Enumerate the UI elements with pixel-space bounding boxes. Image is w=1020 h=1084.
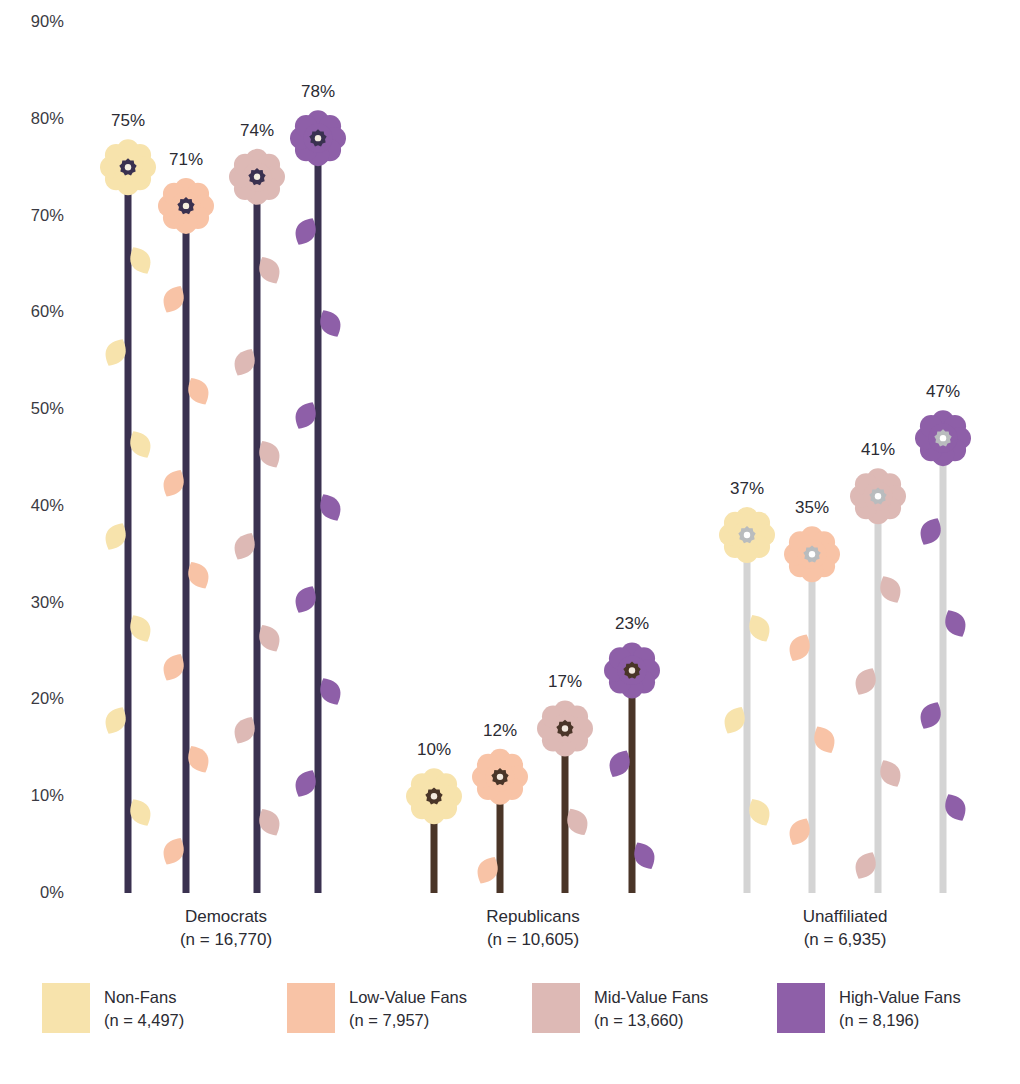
legend-sample-size: (n = 7,957) — [349, 1009, 467, 1032]
labels-layer: 90%80%70%60%50%40%30%20%10%0%75%71%74%78… — [0, 0, 1020, 950]
bar-value-label: 74% — [240, 121, 274, 141]
legend-sample-size: (n = 4,497) — [104, 1009, 184, 1032]
legend-text-block: High-Value Fans(n = 8,196) — [839, 983, 961, 1032]
legend-color-swatch — [287, 983, 335, 1033]
legend-label: Mid-Value Fans — [594, 986, 708, 1009]
bar-value-label: 17% — [548, 672, 582, 692]
group-sample-size: (n = 16,770) — [180, 929, 272, 952]
x-axis-group-label: Republicans(n = 10,605) — [486, 906, 580, 952]
legend-label: Non-Fans — [104, 986, 184, 1009]
y-axis-tick-label: 20% — [6, 689, 64, 708]
legend-item[interactable]: Low-Value Fans(n = 7,957) — [287, 983, 467, 1033]
bar-value-label: 41% — [861, 440, 895, 460]
y-axis-tick-label: 0% — [6, 883, 64, 902]
bar-value-label: 10% — [417, 740, 451, 760]
group-name: Unaffiliated — [803, 906, 888, 929]
legend-label: Low-Value Fans — [349, 986, 467, 1009]
legend-color-swatch — [532, 983, 580, 1033]
bar-value-label: 47% — [926, 382, 960, 402]
x-axis-group-label: Unaffiliated(n = 6,935) — [803, 906, 888, 952]
bar-value-label: 23% — [615, 614, 649, 634]
group-sample-size: (n = 6,935) — [803, 929, 888, 952]
y-axis-tick-label: 70% — [6, 206, 64, 225]
legend-sample-size: (n = 8,196) — [839, 1009, 961, 1032]
legend-color-swatch — [777, 983, 825, 1033]
legend-color-swatch — [42, 983, 90, 1033]
y-axis-tick-label: 90% — [6, 12, 64, 31]
bar-value-label: 75% — [111, 111, 145, 131]
y-axis-tick-label: 50% — [6, 399, 64, 418]
legend-item[interactable]: Non-Fans(n = 4,497) — [42, 983, 184, 1033]
legend-text-block: Non-Fans(n = 4,497) — [104, 983, 184, 1032]
bar-value-label: 37% — [730, 479, 764, 499]
legend-label: High-Value Fans — [839, 986, 961, 1009]
legend-item[interactable]: Mid-Value Fans(n = 13,660) — [532, 983, 708, 1033]
y-axis-tick-label: 80% — [6, 109, 64, 128]
legend-sample-size: (n = 13,660) — [594, 1009, 708, 1032]
bar-value-label: 78% — [301, 82, 335, 102]
legend-text-block: Mid-Value Fans(n = 13,660) — [594, 983, 708, 1032]
group-name: Republicans — [486, 906, 580, 929]
legend-item[interactable]: High-Value Fans(n = 8,196) — [777, 983, 961, 1033]
group-sample-size: (n = 10,605) — [486, 929, 580, 952]
bar-value-label: 71% — [169, 150, 203, 170]
legend-text-block: Low-Value Fans(n = 7,957) — [349, 983, 467, 1032]
y-axis-tick-label: 40% — [6, 496, 64, 515]
bar-value-label: 12% — [483, 721, 517, 741]
y-axis-tick-label: 60% — [6, 302, 64, 321]
bar-value-label: 35% — [795, 498, 829, 518]
group-name: Democrats — [180, 906, 272, 929]
chart-legend: Non-Fans(n = 4,497)Low-Value Fans(n = 7,… — [0, 965, 1020, 1055]
y-axis-tick-label: 10% — [6, 786, 64, 805]
y-axis-tick-label: 30% — [6, 593, 64, 612]
x-axis-group-label: Democrats(n = 16,770) — [180, 906, 272, 952]
chart-root: 90%80%70%60%50%40%30%20%10%0%75%71%74%78… — [0, 0, 1020, 1084]
